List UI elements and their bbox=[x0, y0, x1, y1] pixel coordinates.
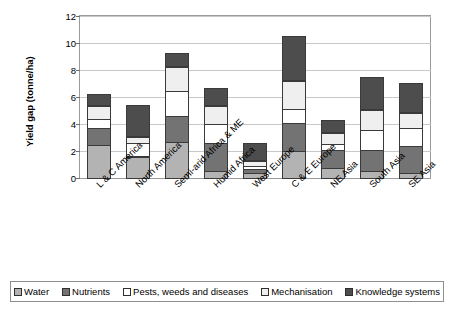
y-tick-label: 8 bbox=[54, 65, 76, 76]
legend-label: Nutrients bbox=[72, 286, 110, 297]
x-axis-category-labels: L & C AmericaNorth AmericaSemi-arid Afri… bbox=[79, 179, 431, 259]
legend-label: Knowledge systems bbox=[355, 286, 439, 297]
bar-segment[interactable] bbox=[321, 120, 345, 134]
y-tick-mark bbox=[76, 43, 80, 44]
bar-segment[interactable] bbox=[165, 53, 189, 67]
bar-segment[interactable] bbox=[282, 109, 306, 124]
y-tick-mark bbox=[76, 151, 80, 152]
legend-label: Pests, weeds and diseases bbox=[133, 286, 248, 297]
legend-swatch-icon bbox=[123, 288, 131, 296]
yield-gap-stacked-bar-chart: Yield gap (tonne/ha) 024681012 L & C Ame… bbox=[0, 0, 455, 314]
y-tick-mark bbox=[76, 124, 80, 125]
bar-slot bbox=[80, 16, 119, 178]
y-tick-mark bbox=[76, 16, 80, 17]
y-tick-label: 2 bbox=[54, 146, 76, 157]
bar-segment[interactable] bbox=[360, 77, 384, 110]
stacked-bar[interactable] bbox=[360, 77, 384, 178]
bar-segment[interactable] bbox=[165, 116, 189, 143]
y-axis-tick-labels: 024681012 bbox=[50, 15, 76, 179]
legend-item[interactable]: Nutrients bbox=[62, 286, 110, 297]
legend-swatch-icon bbox=[62, 288, 70, 296]
bar-segment[interactable] bbox=[399, 128, 423, 147]
bar-segment[interactable] bbox=[282, 36, 306, 81]
legend-item[interactable]: Water bbox=[14, 286, 49, 297]
y-tick-label: 0 bbox=[54, 173, 76, 184]
y-tick-mark bbox=[76, 97, 80, 98]
bar-segment[interactable] bbox=[204, 88, 228, 106]
y-tick-mark bbox=[76, 70, 80, 71]
y-tick-label: 12 bbox=[54, 11, 76, 22]
bar-segment[interactable] bbox=[360, 130, 384, 151]
legend-item[interactable]: Mechanisation bbox=[261, 286, 332, 297]
stacked-bar[interactable] bbox=[399, 83, 423, 178]
y-tick-label: 4 bbox=[54, 119, 76, 130]
bar-segment[interactable] bbox=[204, 106, 228, 126]
bar-segment[interactable] bbox=[282, 81, 306, 110]
legend-label: Mechanisation bbox=[271, 286, 332, 297]
bar-slot bbox=[352, 16, 391, 178]
legend-item[interactable]: Pests, weeds and diseases bbox=[123, 286, 248, 297]
chart-legend: WaterNutrientsPests, weeds and diseasesM… bbox=[10, 281, 444, 302]
bar-segment[interactable] bbox=[87, 94, 111, 106]
y-tick-label: 6 bbox=[54, 92, 76, 103]
bar-segment[interactable] bbox=[126, 105, 150, 137]
bar-segment[interactable] bbox=[399, 113, 423, 130]
legend-label: Water bbox=[24, 286, 49, 297]
legend-swatch-icon bbox=[14, 288, 22, 296]
legend-item[interactable]: Knowledge systems bbox=[345, 286, 439, 297]
bar-segment[interactable] bbox=[165, 91, 189, 117]
bar-segment[interactable] bbox=[165, 67, 189, 92]
bar-segment[interactable] bbox=[87, 106, 111, 120]
y-axis-title: Yield gap (tonne/ha) bbox=[24, 27, 35, 177]
bar-segment[interactable] bbox=[360, 110, 384, 130]
legend-swatch-icon bbox=[345, 288, 353, 296]
bar-segment[interactable] bbox=[87, 128, 111, 146]
stacked-bar[interactable] bbox=[87, 94, 111, 178]
y-tick-mark bbox=[76, 178, 80, 179]
bar-segment[interactable] bbox=[399, 83, 423, 112]
legend-swatch-icon bbox=[261, 288, 269, 296]
y-tick-label: 10 bbox=[54, 38, 76, 49]
